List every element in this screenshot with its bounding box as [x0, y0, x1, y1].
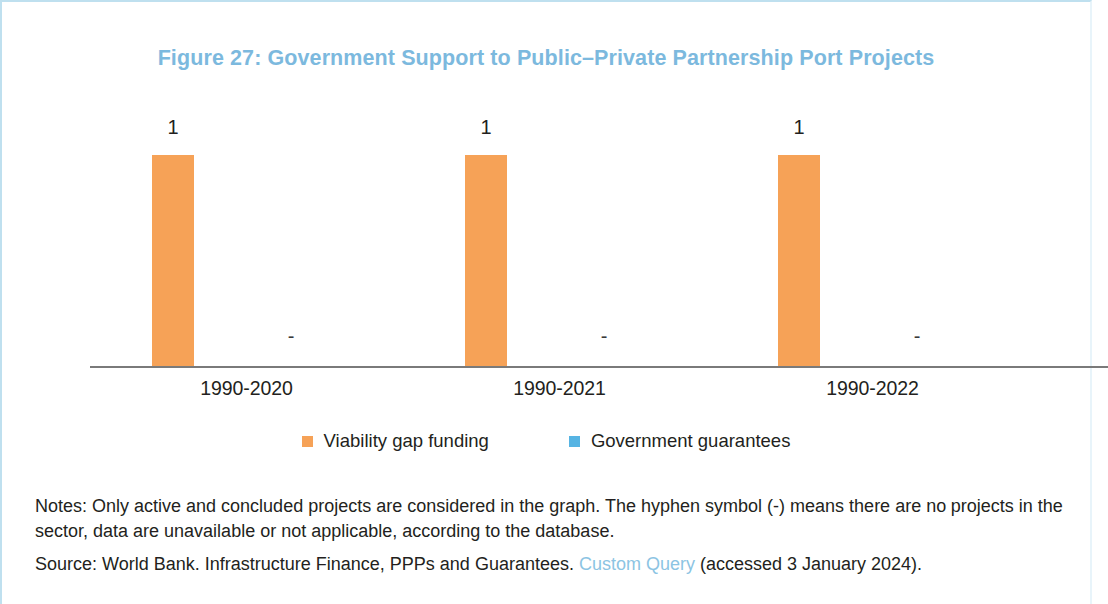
x-axis-tick-labels: 1990-2020 1990-2021 1990-2022 — [90, 377, 1030, 407]
figure-footnotes: Notes: Only active and concluded project… — [35, 494, 1068, 577]
bar-group-1990-2021: 1 - — [403, 102, 716, 367]
legend-swatch-icon — [569, 436, 580, 447]
bar-value-label: 1 — [480, 117, 491, 137]
bar-rect — [778, 155, 820, 366]
bar-viability-gap-funding-1990-2022[interactable]: 1 — [778, 155, 820, 366]
bar-viability-gap-funding-1990-2021[interactable]: 1 — [465, 155, 507, 366]
source-prefix-text: Source: World Bank. Infrastructure Finan… — [35, 554, 579, 574]
bar-value-label: 1 — [793, 117, 804, 137]
bar-government-guarantees-1990-2020: - — [270, 101, 312, 366]
bar-rect — [465, 155, 507, 366]
bar-government-guarantees-1990-2021: - — [583, 101, 625, 366]
source-suffix-text: (accessed 3 January 2024). — [695, 554, 922, 574]
bar-government-guarantees-1990-2022: - — [896, 101, 938, 366]
x-tick-label-1: 1990-2020 — [90, 377, 403, 400]
x-tick-label-3: 1990-2022 — [716, 377, 1029, 400]
legend-item-government-guarantees[interactable]: Government guarantees — [569, 430, 791, 452]
legend-item-label: Viability gap funding — [324, 430, 489, 452]
x-tick-label-2: 1990-2021 — [403, 377, 716, 400]
legend-swatch-icon — [302, 436, 313, 447]
chart-legend: Viability gap funding Government guarant… — [2, 430, 1090, 452]
no-data-dash-label: - — [601, 326, 608, 346]
bar-rect — [152, 155, 194, 366]
legend-item-label: Government guarantees — [591, 430, 791, 452]
bar-group-1990-2022: 1 - — [716, 102, 1029, 367]
page-title: Figure 27: Government Support to Public–… — [2, 46, 1090, 71]
bar-value-label: 1 — [167, 117, 178, 137]
figure-source: Source: World Bank. Infrastructure Finan… — [35, 552, 1068, 577]
x-axis-line — [90, 366, 1108, 368]
no-data-dash-label: - — [288, 326, 295, 346]
chart-plot-area: 1 - 1 - 1 - — [90, 102, 1030, 367]
bar-viability-gap-funding-1990-2020[interactable]: 1 — [152, 155, 194, 366]
legend-item-viability-gap-funding[interactable]: Viability gap funding — [302, 430, 489, 452]
figure-notes: Notes: Only active and concluded project… — [35, 494, 1068, 544]
no-data-dash-label: - — [914, 326, 921, 346]
notes-line-1: Notes: Only active and concluded project… — [35, 496, 946, 516]
bar-group-1990-2020: 1 - — [90, 102, 403, 367]
custom-query-link[interactable]: Custom Query — [579, 554, 695, 574]
